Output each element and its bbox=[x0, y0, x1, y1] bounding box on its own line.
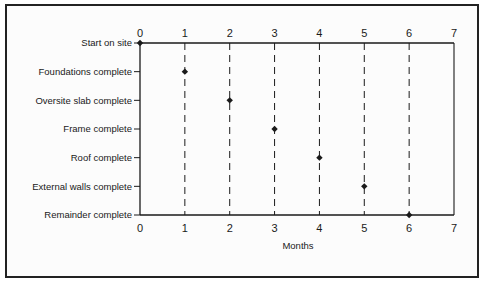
top-tick-label: 7 bbox=[451, 27, 457, 39]
diamond-marker bbox=[271, 126, 277, 132]
bottom-tick-label: 4 bbox=[316, 222, 322, 234]
top-tick-label: 6 bbox=[406, 27, 412, 39]
diamond-marker bbox=[316, 154, 322, 160]
top-tick-label: 0 bbox=[137, 27, 143, 39]
diamond-marker bbox=[137, 40, 143, 46]
category-labels: Start on siteFoundations completeOversit… bbox=[32, 37, 140, 220]
category-label: Foundations complete bbox=[39, 66, 132, 77]
category-label: Frame complete bbox=[63, 123, 132, 134]
bottom-tick-label: 7 bbox=[451, 222, 457, 234]
diamond-marker bbox=[227, 97, 233, 103]
top-tick-labels: 01234567 bbox=[137, 27, 457, 39]
bottom-tick-label: 2 bbox=[227, 222, 233, 234]
bottom-tick-label: 3 bbox=[272, 222, 278, 234]
top-tick-label: 5 bbox=[361, 27, 367, 39]
top-tick-label: 2 bbox=[227, 27, 233, 39]
top-tick-label: 3 bbox=[272, 27, 278, 39]
diamond-marker bbox=[361, 183, 367, 189]
bottom-tick-label: 0 bbox=[137, 222, 143, 234]
diamond-marker bbox=[406, 212, 412, 218]
grid-lines bbox=[185, 43, 409, 215]
top-tick-label: 1 bbox=[182, 27, 188, 39]
category-label: Remainder complete bbox=[44, 209, 132, 220]
x-axis-title: Months bbox=[282, 240, 313, 251]
bottom-tick-label: 6 bbox=[406, 222, 412, 234]
plot-axes bbox=[140, 43, 454, 215]
bottom-tick-label: 1 bbox=[182, 222, 188, 234]
category-label: Oversite slab complete bbox=[35, 95, 132, 106]
category-label: Start on site bbox=[81, 37, 132, 48]
bottom-tick-labels: 01234567 bbox=[137, 222, 457, 234]
milestone-chart: 01234567 01234567 Start on siteFoundatio… bbox=[0, 0, 485, 283]
category-label: External walls complete bbox=[32, 181, 132, 192]
diamond-marker bbox=[182, 68, 188, 74]
category-label: Roof complete bbox=[71, 152, 132, 163]
top-tick-label: 4 bbox=[316, 27, 322, 39]
bottom-tick-label: 5 bbox=[361, 222, 367, 234]
